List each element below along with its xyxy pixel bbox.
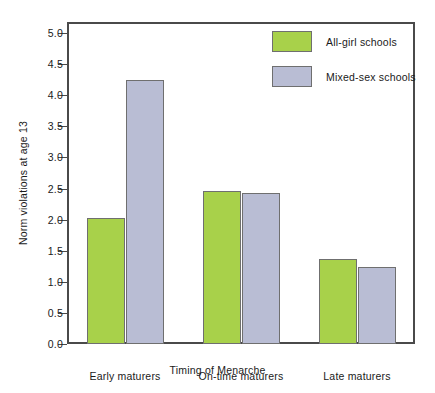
y-axis-tick-label: 2.0 bbox=[48, 214, 63, 226]
bar-early-maturers-all-girl-schools bbox=[87, 218, 125, 344]
legend-item-mixed-sex-schools: Mixed-sex schools bbox=[272, 66, 416, 87]
y-axis-tick-label: 2.5 bbox=[48, 183, 63, 195]
bar-on-time-maturers-all-girl-schools bbox=[203, 191, 241, 344]
bar-late-maturers-all-girl-schools bbox=[319, 259, 357, 344]
bar-early-maturers-mixed-sex-schools bbox=[126, 80, 164, 344]
bar-on-time-maturers-mixed-sex-schools bbox=[242, 193, 280, 344]
y-axis-title: Norm violations at age 13 bbox=[14, 22, 32, 344]
legend-swatch-all-girl-schools bbox=[272, 31, 312, 52]
y-axis-tick-label: 4.5 bbox=[48, 58, 63, 70]
legend-label-all-girl-schools: All-girl schools bbox=[326, 36, 397, 48]
legend-swatch-mixed-sex-schools bbox=[272, 66, 312, 87]
legend-item-all-girl-schools: All-girl schools bbox=[272, 31, 416, 52]
y-axis-tick-label: 3.5 bbox=[48, 120, 63, 132]
bar-chart-figure: 0.00.51.01.52.02.53.03.54.04.55.0Early m… bbox=[0, 0, 435, 393]
bar-late-maturers-mixed-sex-schools bbox=[358, 267, 396, 344]
y-axis-tick-label: 1.0 bbox=[48, 276, 63, 288]
y-axis-tick-label: 1.5 bbox=[48, 245, 63, 257]
y-axis-tick-label: 5.0 bbox=[48, 27, 63, 39]
y-axis-tick-label: 4.0 bbox=[48, 89, 63, 101]
y-axis-tick-label: 0.5 bbox=[48, 307, 63, 319]
y-axis-tick-label: 0.0 bbox=[48, 338, 63, 350]
x-axis-title: Timing of Menarche bbox=[0, 364, 435, 376]
y-axis-tick-label: 3.0 bbox=[48, 151, 63, 163]
chart-legend: All-girl schools Mixed-sex schools bbox=[272, 31, 416, 87]
legend-label-mixed-sex-schools: Mixed-sex schools bbox=[326, 71, 416, 83]
